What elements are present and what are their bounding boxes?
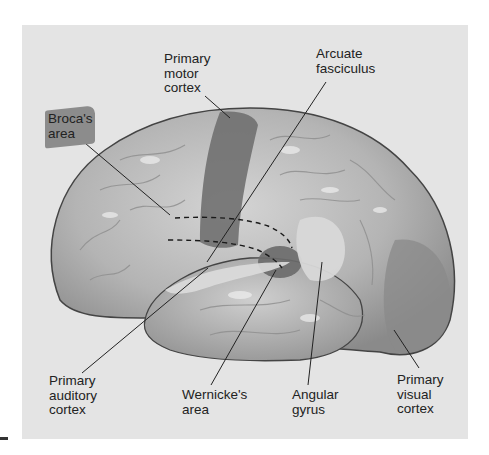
label-arcuate-fasciculus: Arcuate fasciculus: [316, 47, 375, 76]
label-angular-gyrus: Angular gyrus: [292, 388, 339, 417]
label-brocas-area: Broca's area: [48, 112, 93, 141]
label-wernickes-area: Wernicke's area: [182, 388, 247, 417]
label-primary-auditory-cortex: Primary auditory cortex: [49, 374, 97, 418]
label-primary-visual-cortex: Primary visual cortex: [397, 373, 444, 417]
label-primary-motor-cortex: Primary motor cortex: [164, 52, 211, 96]
wernicke-region: [258, 246, 302, 278]
